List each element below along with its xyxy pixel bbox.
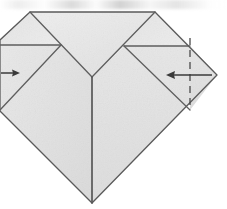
origami-diagram-svg: [0, 0, 227, 209]
origami-diagram-figure: Origami folding diagram step: [0, 0, 227, 209]
facet-right-corner: [190, 46, 217, 110]
